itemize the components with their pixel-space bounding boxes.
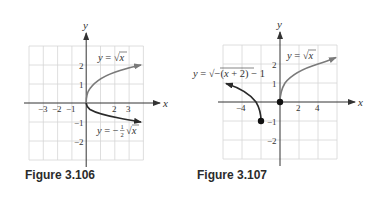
y-axis-label: y: [82, 19, 88, 31]
y-tick: −2: [267, 136, 277, 146]
fraction-numerator: 1: [121, 123, 124, 130]
figure-3-106: x y −3 −2 −1 2 3 2 1 −1 −2 y = √x y = − …: [24, 19, 168, 167]
equation-shifted-reflected-sqrt: y = √−(x + 2) − 1: [192, 68, 265, 80]
equation-sqrt-x: y = √x: [286, 50, 314, 61]
y-tick: −2: [74, 137, 84, 147]
equation-neg-half-sqrt-x: y = −: [96, 125, 119, 136]
x-axis-label: x: [162, 97, 168, 109]
y-tick: 1: [272, 79, 277, 89]
x-tick: 2: [112, 104, 117, 114]
y-tick: 1: [79, 80, 84, 90]
y-axis-label: y: [276, 18, 282, 30]
radical-expression: √x: [126, 125, 137, 136]
x-tick: 3: [126, 104, 131, 114]
x-axis-label: x: [357, 96, 363, 108]
x-tick: −1: [66, 104, 76, 114]
endpoint-neg2-neg1: [258, 118, 264, 124]
figure-caption: Figure 3.107: [197, 168, 267, 182]
x-tick: 2: [296, 103, 301, 113]
y-tick: −1: [74, 118, 84, 128]
x-tick: −3: [38, 104, 48, 114]
y-tick: 2: [272, 60, 277, 70]
x-tick: 4: [315, 103, 320, 113]
x-tick: −4: [236, 103, 246, 113]
x-tick: −2: [52, 104, 62, 114]
figure-3-107: x y −4 2 4 2 1 −1 −2 y = √x y = √−(x + 2…: [192, 18, 363, 166]
figure-caption: Figure 3.106: [25, 168, 95, 182]
y-tick: 2: [79, 61, 84, 71]
fraction-denominator: 2: [121, 131, 124, 138]
y-tick: −1: [267, 117, 277, 127]
equation-sqrt-x: y = √x: [97, 52, 125, 63]
endpoint-origin: [277, 99, 283, 105]
